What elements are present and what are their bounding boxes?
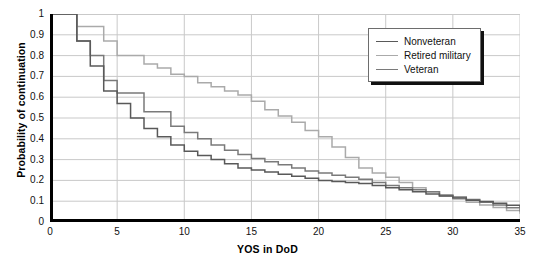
y-tick-label: 0.3 <box>10 155 44 165</box>
legend-item-label: Retired military <box>404 50 471 61</box>
legend-item-label: Veteran <box>404 64 438 75</box>
y-axis-tick-labels: 00.10.20.30.40.50.60.70.80.91 <box>6 0 44 264</box>
chart-legend: NonveteranRetired militaryVeteran <box>368 28 481 82</box>
x-tick-label: 15 <box>231 226 271 237</box>
y-tick-label: 0.6 <box>10 92 44 102</box>
legend-item: Veteran <box>376 62 471 76</box>
x-tick-label: 5 <box>97 226 137 237</box>
legend-swatch-icon <box>376 41 398 42</box>
x-axis-title: YOS in DoD <box>0 243 535 255</box>
x-tick-label: 35 <box>500 226 535 237</box>
y-tick-label: 0.8 <box>10 51 44 61</box>
legend-swatch-icon <box>376 69 398 70</box>
x-tick-label: 25 <box>366 226 406 237</box>
continuation-probability-chart: Probability of continuation 00.10.20.30.… <box>0 0 535 264</box>
y-tick-label: 0.5 <box>10 113 44 123</box>
y-tick-label: 0.2 <box>10 175 44 185</box>
legend-swatch-icon <box>376 55 398 56</box>
x-tick-label: 30 <box>433 226 473 237</box>
x-tick-label: 10 <box>164 226 204 237</box>
y-tick-label: 0.7 <box>10 71 44 81</box>
x-axis-tick-labels: 05101520253035 <box>0 226 535 242</box>
legend-item: Nonveteran <box>376 34 471 48</box>
y-tick-label: 1 <box>10 9 44 19</box>
legend-item: Retired military <box>376 48 471 62</box>
legend-item-label: Nonveteran <box>404 36 456 47</box>
y-tick-label: 0.9 <box>10 30 44 40</box>
y-tick-label: 0.1 <box>10 196 44 206</box>
y-tick-label: 0.4 <box>10 134 44 144</box>
x-tick-label: 0 <box>30 226 70 237</box>
x-tick-label: 20 <box>299 226 339 237</box>
